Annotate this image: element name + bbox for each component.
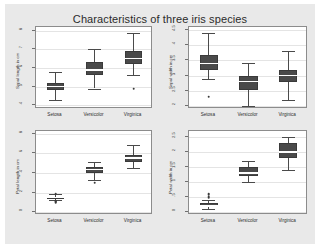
gridline	[36, 105, 151, 106]
x-axis-label: Versicolor	[83, 113, 103, 118]
panel-petal-width: SetosaVersicolorVirginicaPetal width in …	[162, 130, 311, 230]
outlier-point	[54, 200, 57, 203]
y-tick-label: 0	[19, 207, 23, 211]
y-tick-mark	[185, 75, 188, 76]
gridline	[36, 212, 151, 213]
whisker-cap	[127, 168, 140, 169]
y-tick-label: .5	[172, 191, 176, 197]
y-tick-mark	[32, 192, 35, 193]
whisker-cap	[127, 75, 140, 76]
outlier-point	[208, 196, 211, 199]
whisker-cap	[202, 200, 215, 201]
median-line	[47, 197, 65, 198]
y-tick-mark	[32, 133, 35, 134]
median-line	[200, 205, 218, 206]
whisker-cap	[127, 33, 140, 34]
whisker-cap	[49, 72, 62, 73]
panel-sepal-width: SetosaVersicolorVirginicaSepal width in …	[162, 26, 311, 124]
whisker-cap	[242, 106, 255, 107]
y-tick-label: 6	[19, 63, 23, 67]
x-axis-label: Versicolor	[237, 113, 257, 118]
outlier-point	[208, 193, 211, 196]
gridline	[189, 30, 306, 31]
whisker-cap	[282, 170, 295, 171]
y-tick-label: 3.5	[172, 53, 176, 61]
y-tick-label: 6	[19, 148, 23, 152]
x-axis-labels: SetosaVersicolorVirginica	[188, 110, 307, 122]
y-tick-mark	[185, 44, 188, 45]
x-axis-label: Versicolor	[83, 219, 103, 224]
gridline	[189, 212, 306, 213]
panel-sepal-length: SetosaVersicolorVirginicaSepal length in…	[9, 26, 156, 124]
y-tick-mark	[185, 90, 188, 91]
y-tick-mark	[185, 105, 188, 106]
y-tick-label: 8	[19, 129, 23, 133]
median-line	[86, 69, 104, 70]
y-tick-mark	[185, 211, 188, 212]
y-tick-label: 2	[19, 187, 23, 191]
y-tick-mark	[185, 181, 188, 182]
median-line	[47, 86, 65, 87]
whisker-cap	[202, 79, 215, 80]
x-axis-label: Virginica	[124, 113, 142, 118]
y-tick-mark	[185, 151, 188, 152]
panel-petal-length: SetosaVersicolorVirginicaPetal length in…	[9, 130, 156, 230]
figure-canvas: Characteristics of three iris species Se…	[5, 4, 315, 244]
x-axis-label: Versicolor	[237, 219, 257, 224]
plot-area	[188, 130, 307, 214]
outlier-point	[132, 87, 135, 90]
x-axis-label: Setosa	[201, 219, 215, 224]
median-line	[125, 157, 143, 158]
median-line	[86, 169, 104, 170]
y-tick-label: 2.5	[172, 84, 176, 92]
y-tick-label: 4	[19, 100, 23, 104]
y-tick-label: 3	[172, 70, 176, 74]
y-tick-label: 8	[19, 26, 23, 30]
whisker-cap	[242, 161, 255, 162]
gridline	[36, 31, 151, 32]
whisker-cap	[127, 145, 140, 146]
x-axis-label: Virginica	[124, 219, 142, 224]
y-tick-label: 2	[172, 101, 176, 105]
figure-title: Characteristics of three iris species	[5, 13, 315, 25]
median-line	[239, 172, 257, 173]
whisker-cap	[49, 100, 62, 101]
y-tick-mark	[185, 59, 188, 60]
y-tick-mark	[32, 67, 35, 68]
y-tick-mark	[32, 86, 35, 87]
whisker-cap	[242, 182, 255, 183]
median-line	[279, 151, 297, 152]
whisker-cap	[88, 49, 101, 50]
y-tick-mark	[32, 30, 35, 31]
y-tick-mark	[185, 29, 188, 30]
whisker-cap	[282, 51, 295, 52]
x-axis-label: Setosa	[201, 113, 215, 118]
y-tick-label: 4.5	[172, 23, 176, 31]
x-axis-label: Virginica	[278, 113, 296, 118]
outlier-point	[54, 192, 57, 195]
gridline	[189, 45, 306, 46]
x-axis-label: Setosa	[47, 113, 61, 118]
y-tick-mark	[32, 48, 35, 49]
median-line	[125, 58, 143, 59]
y-tick-label: 7	[19, 44, 23, 48]
plot-area	[35, 130, 152, 214]
x-axis-labels: SetosaVersicolorVirginica	[35, 216, 152, 228]
x-axis-labels: SetosaVersicolorVirginica	[188, 216, 307, 228]
y-tick-label: 1.5	[172, 160, 176, 168]
outlier-point	[208, 96, 211, 99]
median-line	[200, 63, 218, 64]
whisker-cap	[242, 63, 255, 64]
whisker-cap	[202, 33, 215, 34]
whisker-cap	[282, 100, 295, 101]
y-tick-label: 2	[172, 147, 176, 151]
y-tick-mark	[185, 166, 188, 167]
y-tick-mark	[32, 211, 35, 212]
whisker-cap	[202, 209, 215, 210]
gridline	[36, 134, 151, 135]
y-tick-mark	[32, 172, 35, 173]
whisker-cap	[88, 89, 101, 90]
outlier-point	[93, 181, 96, 184]
y-tick-label: 1	[172, 177, 176, 181]
box	[239, 76, 257, 90]
